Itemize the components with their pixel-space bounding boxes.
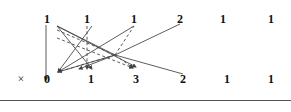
edge-dashed-e xyxy=(57,38,133,68)
row-marker: × xyxy=(13,72,29,86)
edge-solid-g xyxy=(57,26,115,55)
alignment-figure: × 111211 013211 xyxy=(0,0,291,112)
top-row-token: 1 xyxy=(79,12,95,26)
bottom-row-token: 1 xyxy=(219,72,235,86)
top-row-token: 1 xyxy=(215,12,231,26)
bottom-row-token: 3 xyxy=(128,72,144,86)
bottom-row-token: 1 xyxy=(263,72,279,86)
top-row-token: 1 xyxy=(126,12,142,26)
bottom-rule xyxy=(0,100,291,101)
bottom-row-token: 0 xyxy=(39,72,55,86)
edge-group xyxy=(46,24,183,80)
bottom-row-token: 2 xyxy=(175,72,191,86)
top-row-token: 1 xyxy=(39,12,55,26)
bottom-row-token: 1 xyxy=(83,72,99,86)
edge-solid-h xyxy=(79,55,115,69)
top-row-token: 2 xyxy=(172,12,188,26)
top-row-token: 1 xyxy=(263,12,279,26)
